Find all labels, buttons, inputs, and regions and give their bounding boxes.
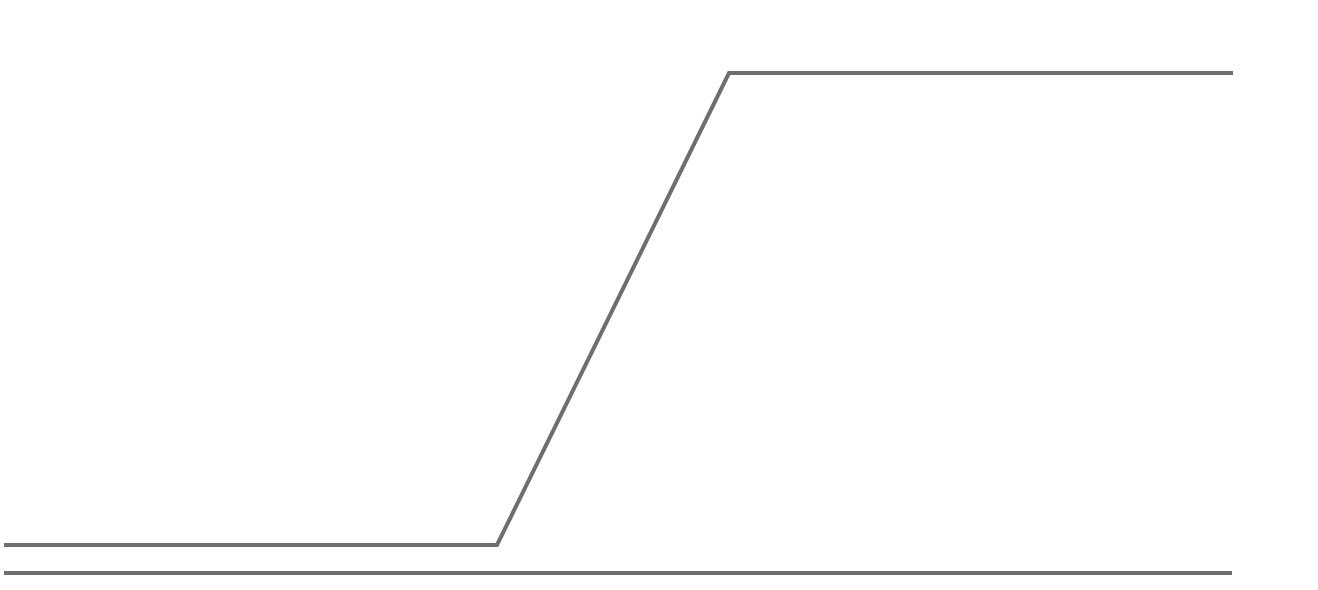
ramp-signal-line <box>4 73 1233 545</box>
chart-canvas <box>0 0 1318 590</box>
line-chart <box>0 0 1318 590</box>
